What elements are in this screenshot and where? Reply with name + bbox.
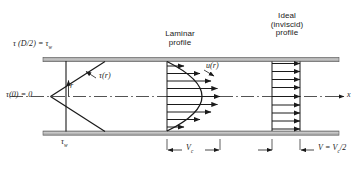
pipe-flow-diagram: τ (D/2) = τw τ(r) r τ(0) = 0 τw Laminar …	[0, 0, 361, 175]
label-dimension-vc: Vc	[186, 144, 193, 154]
label-axis-x: x	[347, 91, 351, 100]
pipe-wall-top	[43, 58, 339, 62]
label-ideal-inviscid-profile: Ideal (inviscid) profile	[248, 12, 326, 38]
pipe-wall-bottom	[43, 131, 339, 135]
label-tau-r: τ(r)	[99, 72, 111, 81]
laminar-profile-line-2: profile	[144, 39, 216, 48]
label-laminar-profile: Laminar profile	[144, 30, 216, 47]
label-tau-wall-top: τ (D/2) = τw	[13, 40, 52, 50]
label-dimension-v: V = Vc/2	[318, 144, 346, 154]
ideal-profile-line-3: profile	[248, 29, 326, 38]
label-tau-center: τ(0) = 0	[6, 91, 32, 100]
ideal-inviscid-velocity-profile	[272, 62, 300, 132]
laminar-velocity-profile	[167, 62, 220, 132]
dimension-v	[258, 139, 314, 150]
label-velocity-u-r: u(r)	[206, 62, 219, 71]
label-radius-r: r	[70, 82, 73, 91]
dimension-vc	[167, 139, 220, 150]
label-tau-wall-bottom: τw	[61, 138, 68, 148]
